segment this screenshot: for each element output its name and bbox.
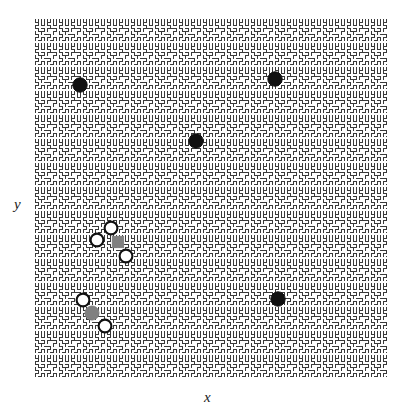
figure-canvas: y x	[0, 0, 414, 413]
hilbert-curve-background	[34, 18, 387, 378]
plot-area	[34, 18, 387, 378]
y-axis-label: y	[14, 197, 21, 212]
x-axis-label: x	[204, 390, 211, 405]
